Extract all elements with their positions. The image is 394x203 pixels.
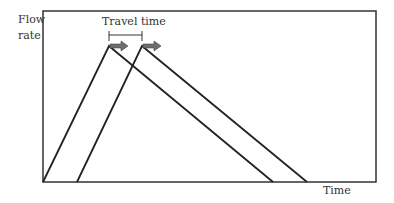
plot-frame: [43, 11, 376, 182]
y-axis-label-line1: Flow: [18, 13, 38, 26]
y-axis-label-line2: rate: [18, 29, 38, 42]
y-axis-label: Flow rate: [18, 13, 38, 42]
x-axis-label: Time: [323, 184, 351, 197]
hydrograph-upstream: [43, 46, 273, 182]
travel-time-label: Travel time: [102, 15, 166, 28]
hydrograph-diagram: [0, 0, 394, 203]
travel-time-bracket: [109, 31, 142, 41]
